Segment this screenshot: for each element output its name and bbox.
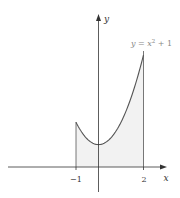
function-label: y = x2 + 1 bbox=[130, 38, 172, 48]
function-label-lhs: y = x bbox=[130, 39, 152, 48]
y-axis-label: y bbox=[103, 14, 110, 24]
x-axis-label: x bbox=[163, 173, 168, 183]
x-tick-label-2: 2 bbox=[141, 175, 146, 184]
function-label-rhs: + 1 bbox=[155, 39, 172, 48]
y-axis-arrow-icon bbox=[96, 14, 101, 21]
x-tick-label-neg1: −1 bbox=[70, 175, 82, 184]
area-under-curve-chart: −1 2 x y y = x2 + 1 bbox=[0, 0, 180, 198]
shaded-region bbox=[76, 55, 144, 167]
x-axis-arrow-icon bbox=[160, 165, 167, 170]
